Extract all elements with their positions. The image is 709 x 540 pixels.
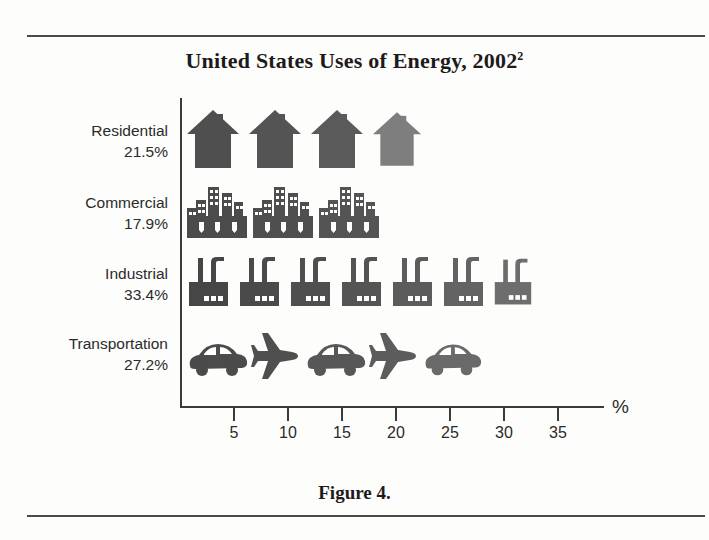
x-axis-tick-35 <box>557 408 559 421</box>
x-axis-unit-label: % <box>612 396 629 418</box>
pictograph-row-commercial <box>186 184 380 240</box>
house-icon-partial <box>372 108 422 170</box>
city-skyline-icon <box>318 184 380 240</box>
x-axis-tick-label-35: 35 <box>538 424 578 442</box>
row-label-transportation-percent: 27.2% <box>0 354 168 375</box>
x-axis-tick-label-10: 10 <box>268 424 308 442</box>
house-icon <box>186 108 240 170</box>
x-axis-tick-15 <box>341 408 343 421</box>
row-label-transportation: Transportation 27.2% <box>0 333 168 375</box>
airplane-icon <box>368 330 420 382</box>
figure-caption: Figure 4. <box>0 482 709 504</box>
car-icon <box>304 330 366 382</box>
city-skyline-icon <box>186 184 248 240</box>
pictograph-row-transportation <box>186 330 482 382</box>
row-label-transportation-name: Transportation <box>69 335 168 352</box>
car-icon-partial <box>422 330 482 382</box>
row-label-industrial-percent: 33.4% <box>0 284 168 305</box>
x-axis-tick-label-15: 15 <box>322 424 362 442</box>
airplane-icon <box>250 330 302 382</box>
x-axis-tick-label-5: 5 <box>214 424 254 442</box>
x-axis-line <box>180 406 604 408</box>
factory-icon <box>441 256 486 310</box>
y-axis-line <box>180 98 182 408</box>
pictograph-row-residential <box>186 108 422 170</box>
house-icon <box>310 108 364 170</box>
car-icon <box>186 330 248 382</box>
row-label-industrial-name: Industrial <box>105 265 168 282</box>
x-axis-tick-30 <box>503 408 505 421</box>
bottom-rule <box>27 515 705 517</box>
figure-page: United States Uses of Energy, 20022 5 10… <box>0 0 709 540</box>
x-axis-tick-25 <box>449 408 451 421</box>
factory-icon <box>390 256 435 310</box>
row-label-residential: Residential 21.5% <box>0 120 168 162</box>
row-label-commercial: Commercial 17.9% <box>0 192 168 234</box>
row-label-commercial-name: Commercial <box>85 194 168 211</box>
x-axis-tick-5 <box>233 408 235 421</box>
x-axis-tick-label-30: 30 <box>484 424 524 442</box>
x-axis-tick-10 <box>287 408 289 421</box>
row-label-industrial: Industrial 33.4% <box>0 263 168 305</box>
house-icon <box>248 108 302 170</box>
factory-icon-partial <box>492 256 534 310</box>
pictograph-row-industrial <box>186 256 534 310</box>
row-label-residential-percent: 21.5% <box>0 141 168 162</box>
row-label-residential-name: Residential <box>91 122 168 139</box>
factory-icon <box>186 256 231 310</box>
factory-icon <box>237 256 282 310</box>
row-label-commercial-percent: 17.9% <box>0 213 168 234</box>
factory-icon <box>339 256 384 310</box>
city-skyline-icon <box>252 184 314 240</box>
x-axis-tick-20 <box>395 408 397 421</box>
x-axis-tick-label-25: 25 <box>430 424 470 442</box>
x-axis-tick-label-20: 20 <box>376 424 416 442</box>
pictograph-chart: 5 10 15 20 25 30 35 % Residential 21.5% … <box>0 0 709 470</box>
factory-icon <box>288 256 333 310</box>
